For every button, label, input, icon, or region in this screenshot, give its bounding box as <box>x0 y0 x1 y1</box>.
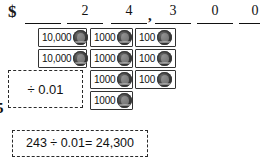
place-value-digit: 3 <box>154 2 192 20</box>
place-value-slot-ones[interactable]: 0 <box>238 2 260 24</box>
slot-underline <box>239 23 260 24</box>
coin-icon <box>73 30 88 45</box>
place-value-digit: 2 <box>66 2 104 20</box>
place-value-slot-tens[interactable]: 0 <box>196 2 234 24</box>
place-value-row: $ 2 4 , 3 0 0 <box>0 0 260 26</box>
money-note[interactable]: 1000 <box>90 28 133 47</box>
coin-icon <box>157 30 172 45</box>
note-amount-label: 10,000 <box>42 32 71 43</box>
equation-callout-box[interactable]: 243 ÷ 0.01= 24,300 <box>12 130 148 157</box>
note-amount-label: 100 <box>139 32 155 43</box>
coin-icon <box>117 93 132 108</box>
money-note[interactable]: 100 <box>135 28 176 47</box>
coin-icon <box>117 51 132 66</box>
note-amount-label: 1000 <box>94 74 115 85</box>
slot-underline <box>197 23 233 24</box>
dollar-sign: $ <box>8 2 17 22</box>
coin-icon <box>73 51 88 66</box>
coin-icon <box>117 72 132 87</box>
note-amount-label: 10,000 <box>42 53 71 64</box>
place-value-slot-thousands[interactable]: 4 <box>110 2 148 24</box>
coin-icon <box>117 30 132 45</box>
money-note[interactable]: 10,000 <box>38 49 87 68</box>
place-value-slot-blank[interactable] <box>24 2 62 24</box>
note-amount-label: 100 <box>139 74 155 85</box>
margin-glyph: 5 <box>0 100 4 117</box>
slot-underline <box>67 23 103 24</box>
slot-underline <box>155 23 191 24</box>
place-value-digit: 0 <box>238 2 260 20</box>
thousands-comma: , <box>148 8 152 22</box>
money-note[interactable]: 100 <box>135 49 176 68</box>
note-amount-label: 1000 <box>94 32 115 43</box>
place-value-slot-hundreds[interactable]: 3 <box>154 2 192 24</box>
money-note[interactable]: 100 <box>135 70 176 89</box>
coin-icon <box>157 72 172 87</box>
place-value-digit: 4 <box>110 2 148 20</box>
money-note[interactable]: 1000 <box>90 91 133 110</box>
place-value-slot-ten-thousands[interactable]: 2 <box>66 2 104 24</box>
place-value-digit: 0 <box>196 2 234 20</box>
note-amount-label: 100 <box>139 53 155 64</box>
equation-callout-text: 243 ÷ 0.01= 24,300 <box>26 136 134 151</box>
divisor-callout-box[interactable]: ÷ 0.01 <box>8 70 83 108</box>
worksheet-canvas: $ 2 4 , 3 0 0 10,000 <box>0 0 260 161</box>
note-amount-label: 1000 <box>94 53 115 64</box>
note-amount-label: 1000 <box>94 95 115 106</box>
coin-icon <box>157 51 172 66</box>
money-note[interactable]: 10,000 <box>38 28 87 47</box>
divisor-callout-text: ÷ 0.01 <box>27 82 63 97</box>
money-note[interactable]: 1000 <box>90 49 133 68</box>
money-note[interactable]: 1000 <box>90 70 133 89</box>
slot-underline <box>111 23 147 24</box>
slot-underline <box>25 23 61 24</box>
